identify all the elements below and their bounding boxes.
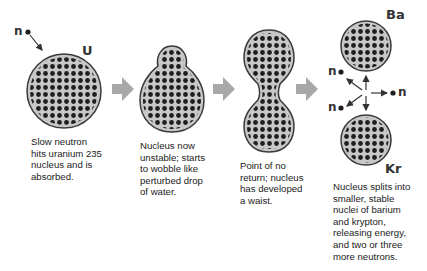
step-arrow-icon [296,77,318,101]
neutron-label: n [328,100,337,114]
emitted-neutrons-icon [338,69,395,110]
waisted-nucleus [244,30,294,152]
uranium-nucleus [27,54,101,128]
fission-diagram: n U Ba Kr n n n Slow neutron hits uraniu… [0,0,427,271]
incoming-neutron-icon [25,29,42,50]
caption-absorption: Slow neutron hits uranium 235 nucleus an… [31,136,102,182]
barium-nucleus [341,21,391,71]
krypton-nucleus [341,115,391,165]
uranium-label: U [82,43,93,58]
neutron-label: n [14,24,23,38]
neutron-label: n [398,85,407,99]
barium-label: Ba [386,7,405,22]
caption-waist: Point of no return; nucleus has develope… [240,160,303,206]
caption-split: Nucleus splits into smaller, stable nucl… [333,181,410,262]
caption-unstable: Nucleus now unstable; starts to wobble l… [140,140,205,198]
unstable-nucleus [140,46,204,132]
krypton-label: Kr [385,161,402,176]
step-arrow-icon [213,77,235,101]
neutron-label: n [328,64,337,78]
step-arrow-icon [112,77,134,101]
